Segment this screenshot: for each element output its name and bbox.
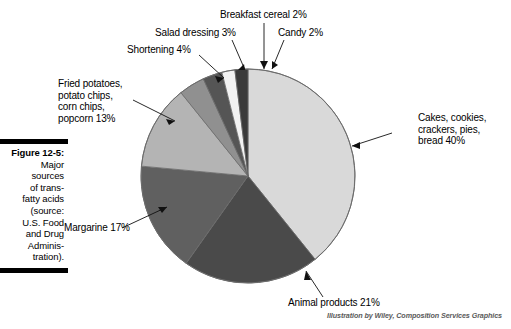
figure-canvas: Figure 12-5: Major sources of trans- fat… [0, 0, 511, 329]
pie-slice-group [141, 69, 355, 283]
slice-label-line: Animal products 21% [288, 297, 380, 309]
pie-chart [0, 0, 511, 329]
slice-label-fried-potatoes: Fried potatoes, potato chips, corn chips… [58, 78, 122, 124]
slice-label-line: corn chips, [58, 101, 122, 113]
slice-label-cakes: Cakes, cookies, crackers, pies, bread 40… [418, 112, 486, 147]
leader-shortening [199, 55, 224, 78]
illustration-credit: Illustration by Wiley, Composition Servi… [327, 311, 502, 320]
slice-label-salad-dressing: Salad dressing 3% [155, 27, 236, 39]
arrowhead-animal [304, 271, 311, 280]
leader-animal [306, 271, 323, 297]
slice-label-line: Candy 2% [278, 27, 323, 39]
slice-label-animal-products: Animal products 21% [288, 297, 380, 309]
slice-label-line: bread 40% [418, 135, 486, 147]
slice-label-shortening: Shortening 4% [127, 44, 191, 56]
slice-label-line: Margarine 17% [64, 222, 130, 234]
slice-label-candy: Candy 2% [278, 27, 323, 39]
slice-label-line: Cakes, cookies, [418, 112, 486, 124]
slice-label-breakfast-cereal: Breakfast cereal 2% [220, 9, 307, 21]
slice-label-line: Breakfast cereal 2% [220, 9, 307, 21]
slice-label-line: Salad dressing 3% [155, 27, 236, 39]
slice-label-line: popcorn 13% [58, 113, 122, 125]
slice-label-line: crackers, pies, [418, 124, 486, 136]
arrowhead-cakes [352, 142, 360, 149]
slice-label-line: Fried potatoes, [58, 78, 122, 90]
arrowhead-cereal [260, 61, 268, 69]
slice-label-margarine: Margarine 17% [64, 222, 130, 234]
slice-label-line: Shortening 4% [127, 44, 191, 56]
arrowhead-salad [238, 64, 245, 70]
slice-label-line: potato chips, [58, 90, 122, 102]
